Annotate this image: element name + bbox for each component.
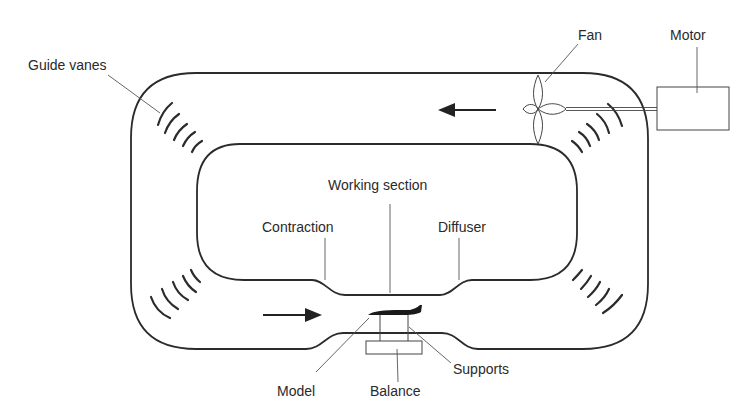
flow-arrow-right: [263, 308, 322, 322]
guide-vanes-top-left: [158, 103, 202, 152]
label-motor: Motor: [670, 27, 706, 43]
fan-icon: [523, 75, 566, 144]
flow-arrow-left: [438, 103, 496, 117]
guide-vanes-bottom-right: [573, 270, 622, 313]
label-model: Model: [277, 383, 315, 399]
model-aircraft-icon: [368, 305, 422, 315]
inner-duct-wall: [197, 144, 577, 295]
label-contraction: Contraction: [262, 219, 334, 235]
guide-vanes-bottom-left: [151, 270, 200, 318]
label-fan: Fan: [578, 27, 602, 43]
guide-vanes-top-right: [572, 104, 622, 152]
balance-box: [366, 341, 422, 354]
label-supports: Supports: [453, 361, 509, 377]
outer-duct-wall: [131, 73, 648, 349]
leader-model: [316, 318, 369, 372]
wind-tunnel-diagram: Guide vanes Fan Motor Working section Co…: [0, 0, 753, 420]
leader-guide-vanes: [108, 75, 160, 113]
label-working-section: Working section: [328, 177, 427, 193]
label-guide-vanes: Guide vanes: [28, 57, 107, 73]
motor-box: [657, 87, 729, 130]
label-balance: Balance: [370, 383, 421, 399]
leader-fan: [545, 44, 578, 82]
label-diffuser: Diffuser: [438, 219, 486, 235]
model-supports: [380, 315, 408, 341]
